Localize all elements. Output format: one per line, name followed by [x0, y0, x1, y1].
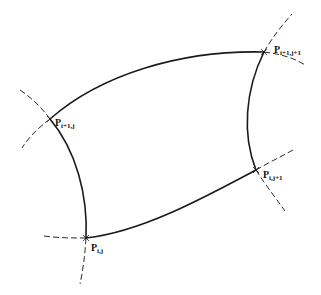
extension-bottom-left-a [44, 236, 86, 238]
extension-upper-left-a [20, 90, 50, 119]
label-p-i-j: Pi,j [91, 242, 103, 255]
point-marker-i1-j [47, 116, 53, 122]
edge-right-curve [247, 52, 264, 170]
extension-bottom-left-b [80, 238, 86, 284]
grid-cell-diagram: Pi+1,j Pi+1,j+1 Pi,j+1 Pi,j [0, 0, 321, 295]
label-p-i1-j1: Pi+1,j+1 [274, 44, 302, 57]
edge-top-curve [50, 52, 264, 119]
edge-left-curve [50, 119, 86, 238]
extension-right-mid-a [256, 150, 293, 170]
label-p-i-j1: Pi,j+1 [263, 169, 283, 182]
label-p-i1-j: Pi+1,j [55, 117, 75, 130]
extension-upper-left-b [22, 119, 50, 148]
edge-bottom-curve [86, 170, 256, 238]
